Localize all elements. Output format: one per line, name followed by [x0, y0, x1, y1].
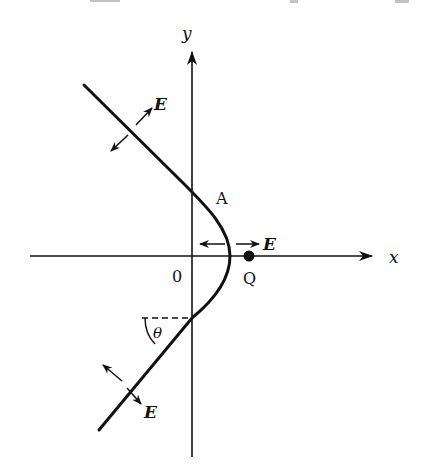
field-label-top: E	[153, 94, 168, 114]
field-arrow-bottom-upper	[103, 365, 122, 381]
field-label-bottom: E	[143, 402, 158, 422]
point-a-label: A	[215, 189, 228, 208]
field-arrow-top-outward	[136, 108, 152, 125]
y-axis-label: y	[181, 23, 192, 43]
hyperbola-curve	[84, 85, 230, 430]
field-label-vertex: E	[262, 234, 277, 254]
field-arrow-top-inward	[111, 135, 128, 151]
charge-point-q	[244, 251, 255, 262]
hyperbola-field-diagram: y x 0 A Q θ E E E	[0, 0, 421, 466]
point-q-label: Q	[243, 269, 256, 288]
theta-label: θ	[153, 324, 162, 342]
x-axis-label: x	[389, 247, 399, 267]
origin-label: 0	[172, 267, 182, 286]
cut-off-header-text	[90, 0, 409, 3]
